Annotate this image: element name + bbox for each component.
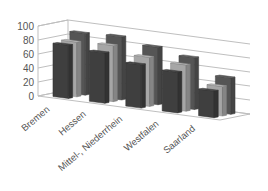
bar — [162, 69, 182, 112]
bar — [126, 62, 146, 108]
y-tick-label: 40 — [23, 63, 35, 74]
y-tick-label: 100 — [17, 21, 34, 32]
bar — [89, 50, 109, 103]
y-tick-label: 80 — [23, 35, 35, 46]
y-tick-label: 20 — [23, 77, 35, 88]
bar — [199, 88, 219, 117]
chart: 020406080100 BremenHessenMittel-, Nieder… — [0, 0, 268, 191]
bar — [53, 42, 73, 98]
category-label: Bremen — [19, 104, 52, 134]
category-label: Hessen — [56, 108, 88, 137]
category-label: Saarland — [161, 123, 197, 156]
y-tick-label: 0 — [28, 91, 34, 102]
y-axis: 020406080100 — [17, 21, 34, 102]
y-tick-label: 60 — [23, 49, 35, 60]
category-label: Westfalen — [121, 118, 160, 153]
